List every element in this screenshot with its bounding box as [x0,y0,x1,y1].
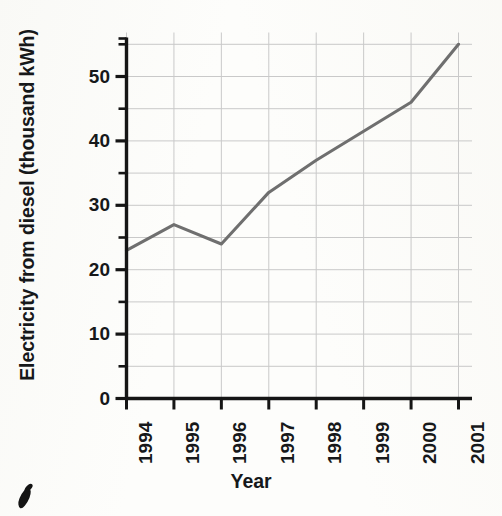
x-axis-tick-label: 2001 [467,422,489,464]
y-axis-tick-label: 0 [48,388,110,410]
x-axis-tick-label: 1998 [324,422,346,464]
x-axis-title: Year [0,470,502,493]
y-axis-title: Electricity from diesel (thousand kWh) [16,29,39,381]
x-axis-tick-label: 1994 [135,422,157,464]
x-axis-tick-label: 2000 [419,422,441,464]
data-line-electricity-from-diesel [127,44,459,250]
y-axis-tick-label: 10 [48,323,110,345]
x-axis-tick-label: 1996 [229,422,251,464]
y-axis-tick-label: 40 [48,130,110,152]
x-axis-tick-label: 1995 [182,422,204,464]
y-axis-title-container: Electricity from diesel (thousand kWh) [0,0,54,410]
y-axis-tick-label: 30 [48,194,110,216]
chart-page: Electricity from diesel (thousand kWh) Y… [0,0,502,516]
gridlines [127,33,473,399]
x-axis-tick-label: 1999 [372,422,394,464]
y-axis-tick-label: 50 [48,66,110,88]
x-axis-tick-label: 1997 [277,422,299,464]
y-axis-tick-label: 20 [48,259,110,281]
